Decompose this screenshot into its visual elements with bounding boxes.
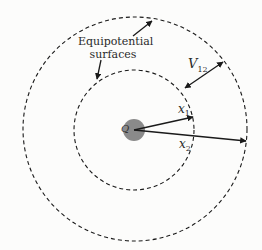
label-line-1: Equipotential	[78, 35, 148, 48]
equipotential-diagram: Equipotential surfaces Q V12 x1 x2	[0, 0, 262, 250]
label-line-2: surfaces	[78, 48, 148, 61]
equipotential-surfaces-label: Equipotential surfaces	[78, 35, 148, 61]
outer-surface-pointer-arrow	[133, 21, 152, 36]
charge-q-label: Q	[121, 123, 129, 134]
x1-label: x1	[178, 102, 190, 118]
x2-label: x2	[179, 137, 191, 153]
inner-surface-pointer-arrow	[97, 60, 101, 79]
v12-label: V12	[188, 56, 208, 74]
